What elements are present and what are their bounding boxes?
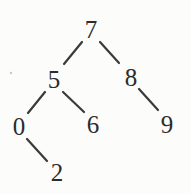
edge-7-5 — [64, 42, 82, 64]
edge-5-6 — [63, 92, 84, 112]
edge-0-2 — [27, 139, 47, 161]
tree-node-right: 8 — [125, 64, 138, 91]
binary-tree-diagram: 7 5 8 0 6 9 2 — [0, 0, 191, 194]
tree-node-left: 5 — [48, 66, 61, 93]
tree-node-right-right: 9 — [161, 111, 174, 138]
edge-8-9 — [139, 89, 158, 110]
tree-node-left-left: 0 — [13, 113, 26, 140]
edge-7-8 — [100, 42, 119, 63]
scan-artifact-dot — [10, 72, 12, 74]
tree-node-left-left-right: 2 — [51, 159, 64, 186]
tree-node-root: 7 — [85, 16, 98, 43]
tree-canvas: 7 5 8 0 6 9 2 — [0, 0, 191, 194]
tree-node-left-right: 6 — [87, 111, 100, 138]
edge-5-0 — [28, 92, 45, 113]
